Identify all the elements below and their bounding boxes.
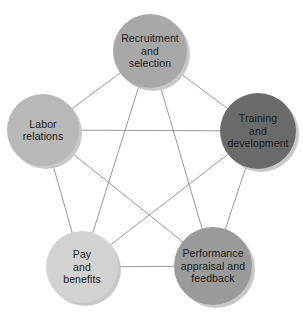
node-circle[interactable] [46,231,118,303]
node-recruitment-and-selection[interactable]: Recruitmentandselection [113,14,190,91]
edge-training-to-performance [225,165,247,231]
node-labor-relations[interactable]: Laborrelations [7,94,82,169]
edge-recruitment-to-pay [92,84,139,234]
edge-labor-to-recruitment [70,72,121,110]
edge-recruitment-to-training [178,72,229,110]
node-layer: RecruitmentandselectionTraininganddevelo… [7,14,299,308]
pentagon-network-diagram: RecruitmentandselectionTraininganddevelo… [0,0,303,314]
node-training-and-development[interactable]: Traininganddevelopment [220,93,299,172]
node-circle[interactable] [174,227,252,305]
edge-performance-to-labor [70,151,185,243]
node-circle[interactable] [220,93,296,169]
node-circle[interactable] [113,14,187,88]
diagram-canvas: RecruitmentandselectionTraininganddevelo… [0,0,303,314]
node-pay-and-benefits[interactable]: Payandbenefits [46,231,121,306]
edge-recruitment-to-performance [160,85,203,231]
edge-training-to-labor [77,130,222,131]
node-performance-appraisal-and-feedback[interactable]: Performanceappraisal andfeedback [174,227,255,308]
edge-pay-to-labor [52,163,72,235]
node-circle[interactable] [7,94,79,166]
